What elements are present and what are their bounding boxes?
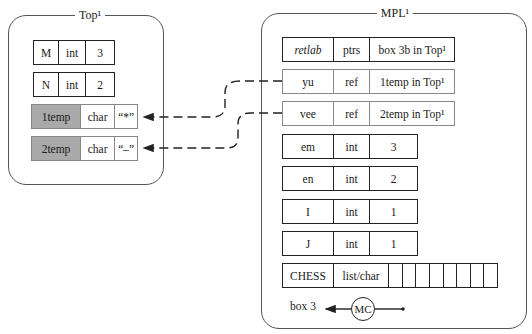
- connector-layer: [0, 0, 532, 334]
- mc-endpoint-dot: [401, 307, 405, 311]
- arrow-yu-to-1temp: [144, 81, 282, 117]
- arrow-vee-to-2temp: [144, 113, 282, 148]
